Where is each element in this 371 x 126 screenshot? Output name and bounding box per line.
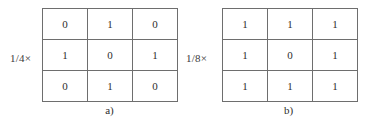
table-row: 1 1 1 — [223, 9, 358, 40]
matrix-cell: 1 — [223, 40, 268, 71]
matrix-cell: 1 — [133, 40, 178, 71]
matrix-cell: 1 — [268, 71, 313, 102]
table-row: 0 1 0 — [43, 9, 178, 40]
matrix-cell: 1 — [268, 9, 313, 40]
matrix-cell: 1 — [43, 40, 88, 71]
kernel-matrix-b: 1 1 1 1 0 1 1 1 1 — [222, 8, 358, 102]
matrix-cell: 1 — [313, 9, 358, 40]
kernel-matrix-a: 0 1 0 1 0 1 0 1 0 — [42, 8, 178, 102]
matrix-cell: 1 — [88, 9, 133, 40]
matrix-cell: 0 — [133, 71, 178, 102]
matrix-cell: 1 — [223, 71, 268, 102]
matrix-cell: 0 — [133, 9, 178, 40]
matrix-cell: 0 — [88, 40, 133, 71]
caption-a: a) — [42, 104, 177, 117]
caption-b: b) — [222, 104, 355, 117]
table-row: 1 0 1 — [43, 40, 178, 71]
kernel-figure: 1/4× 0 1 0 1 0 1 0 1 0 a) — [0, 0, 371, 126]
matrix-cell: 0 — [268, 40, 313, 71]
matrix-cell: 0 — [43, 71, 88, 102]
table-row: 1 1 1 — [223, 71, 358, 102]
scale-label-b: 1/8× — [186, 52, 207, 64]
scale-label-a: 1/4× — [10, 52, 31, 64]
matrix-cell: 0 — [43, 9, 88, 40]
table-row: 1 0 1 — [223, 40, 358, 71]
matrix-cell: 1 — [313, 71, 358, 102]
matrix-cell: 1 — [223, 9, 268, 40]
matrix-cell: 1 — [313, 40, 358, 71]
table-row: 0 1 0 — [43, 71, 178, 102]
matrix-cell: 1 — [88, 71, 133, 102]
